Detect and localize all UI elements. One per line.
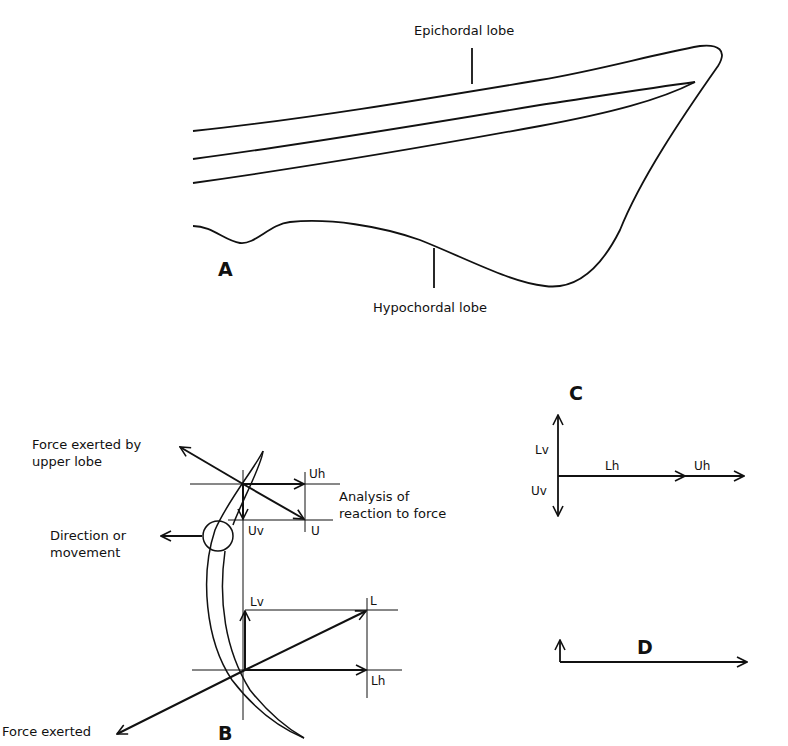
direction-circle xyxy=(203,521,233,551)
l-arrow xyxy=(245,611,366,670)
hypochordal-lobe-label: Hypochordal lobe xyxy=(373,300,487,315)
panel-label-d: D xyxy=(637,636,653,658)
c-label-lv: Lv xyxy=(535,443,549,457)
epichordal-lobe-label: Epichordal lobe xyxy=(414,23,514,38)
analysis-label-2: reaction to force xyxy=(339,506,446,521)
vector-sum-c xyxy=(558,415,744,516)
upper-vector-analysis xyxy=(161,447,340,720)
epichordal-outer-edge xyxy=(193,46,722,287)
c-label-uh: Uh xyxy=(694,459,710,473)
vec-label-lh: Lh xyxy=(371,674,385,688)
resultant-d xyxy=(560,640,747,662)
upper-force-label-1: Force exerted by xyxy=(32,437,141,452)
c-label-uv: Uv xyxy=(531,484,547,498)
vec-label-l: L xyxy=(370,594,377,608)
direction-label-2: movement xyxy=(50,545,120,560)
upper-force-arrow xyxy=(180,447,243,484)
tail-outline-a xyxy=(193,46,722,288)
diagram-canvas xyxy=(0,0,788,746)
vec-label-u: U xyxy=(311,524,320,538)
notochord-upper-line xyxy=(193,82,695,159)
vec-label-lv: Lv xyxy=(250,595,264,609)
vec-label-uh: Uh xyxy=(309,467,325,481)
upper-force-label-2: upper lobe xyxy=(32,454,102,469)
u-arrow xyxy=(243,484,304,519)
analysis-label-1: Analysis of xyxy=(339,489,409,504)
c-label-lh: Lh xyxy=(605,459,619,473)
lower-vector-analysis xyxy=(117,598,402,734)
notochord-lower-line xyxy=(193,82,695,183)
vec-label-uv: Uv xyxy=(248,524,264,538)
panel-label-b: B xyxy=(218,722,232,744)
direction-label-1: Direction or xyxy=(50,528,126,543)
panel-label-a: A xyxy=(218,258,233,280)
panel-label-c: C xyxy=(569,382,583,404)
lower-force-label: Force exerted xyxy=(2,724,91,739)
